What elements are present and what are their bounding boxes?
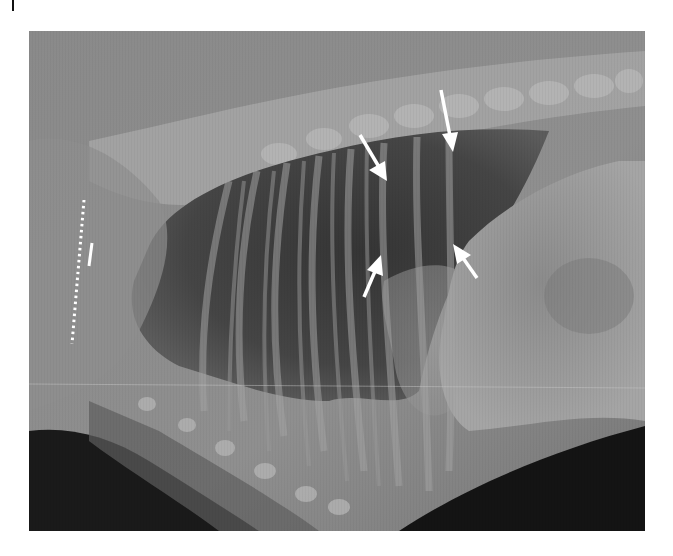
panel-label-mark xyxy=(12,0,14,11)
grid-texture xyxy=(29,31,645,531)
radiograph-drawing xyxy=(29,31,645,531)
radiograph-image xyxy=(29,31,645,531)
